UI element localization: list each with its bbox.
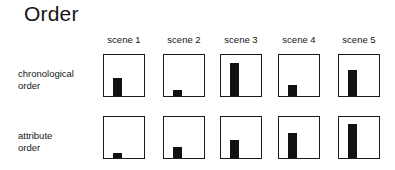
panel-chronological-order-scene-5	[338, 54, 380, 97]
panel-chronological-order-scene-1	[103, 54, 145, 97]
panel-attribute-order-scene-3	[220, 116, 262, 159]
bar	[113, 78, 122, 96]
bar	[173, 147, 182, 158]
panel-chronological-order-scene-3	[220, 54, 262, 97]
panel-chronological-order-scene-2	[163, 54, 205, 97]
bar	[113, 153, 122, 158]
panel-attribute-order-scene-5	[338, 116, 380, 159]
figure-order: Order scene 1 scene 2 scene 3 scene 4 sc…	[0, 0, 395, 170]
panel-attribute-order-scene-1	[103, 116, 145, 159]
row-label-chronological-order: chronological order	[18, 68, 100, 91]
column-header-scene-2: scene 2	[156, 34, 212, 46]
bar	[230, 140, 239, 158]
panel-attribute-order-scene-2	[163, 116, 205, 159]
panel-chronological-order-scene-4	[278, 54, 320, 97]
plot-area	[339, 117, 379, 158]
bar	[348, 124, 357, 158]
plot-area	[104, 55, 144, 96]
panel-attribute-order-scene-4	[278, 116, 320, 159]
column-header-scene-3: scene 3	[213, 34, 269, 46]
plot-area	[221, 117, 261, 158]
plot-area	[221, 55, 261, 96]
row-label-attribute-order: attribute order	[18, 130, 100, 153]
bar	[288, 85, 297, 96]
row-label-line-2: order	[18, 80, 100, 92]
row-label-line-1: chronological	[18, 68, 100, 80]
plot-area	[279, 55, 319, 96]
row-label-line-1: attribute	[18, 130, 100, 142]
bar	[230, 63, 239, 96]
column-header-scene-5: scene 5	[331, 34, 387, 46]
bar	[348, 70, 357, 96]
bar	[288, 133, 297, 158]
page-title: Order	[24, 1, 79, 27]
plot-area	[164, 55, 204, 96]
bar	[173, 90, 182, 96]
column-header-scene-1: scene 1	[96, 34, 152, 46]
plot-area	[339, 55, 379, 96]
plot-area	[279, 117, 319, 158]
plot-area	[104, 117, 144, 158]
row-label-line-2: order	[18, 142, 100, 154]
column-header-scene-4: scene 4	[271, 34, 327, 46]
plot-area	[164, 117, 204, 158]
